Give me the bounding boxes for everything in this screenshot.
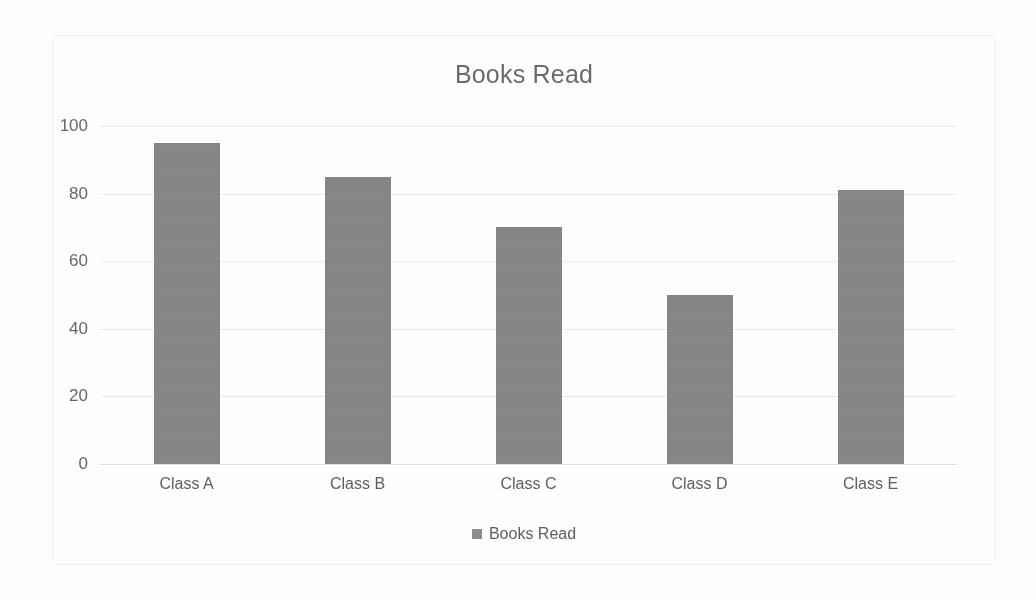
chart-legend: Books Read [54, 525, 994, 543]
legend-color-swatch-icon [472, 529, 482, 539]
bar[interactable] [496, 227, 562, 464]
y-axis-tick-label: 80 [69, 184, 88, 204]
legend-label: Books Read [489, 525, 576, 543]
bar-slot: Class D [614, 126, 785, 464]
y-axis-tick-label: 100 [60, 116, 88, 136]
bar[interactable] [838, 190, 904, 464]
x-axis-category-label: Class A [159, 475, 213, 493]
bar-slot: Class B [272, 126, 443, 464]
x-axis-category-label: Class B [330, 475, 385, 493]
chart-page: Books Read 020406080100Class AClass BCla… [0, 0, 1036, 600]
chart-frame: Books Read 020406080100Class AClass BCla… [53, 35, 995, 565]
bar[interactable] [154, 143, 220, 464]
x-axis-category-label: Class C [500, 475, 556, 493]
x-axis-category-label: Class D [671, 475, 727, 493]
y-axis-tick-label: 20 [69, 386, 88, 406]
bar[interactable] [667, 295, 733, 464]
bar-slot: Class A [101, 126, 272, 464]
y-axis-tick-label: 60 [69, 251, 88, 271]
gridline [101, 464, 956, 465]
chart-title: Books Read [54, 60, 994, 89]
plot-area: 020406080100Class AClass BClass CClass D… [101, 126, 956, 464]
y-axis-tick-label: 0 [79, 454, 88, 474]
y-axis-tick-label: 40 [69, 319, 88, 339]
bar[interactable] [325, 177, 391, 464]
bar-slot: Class C [443, 126, 614, 464]
bar-slot: Class E [785, 126, 956, 464]
x-axis-category-label: Class E [843, 475, 898, 493]
bar-series: Class AClass BClass CClass DClass E [101, 126, 956, 464]
